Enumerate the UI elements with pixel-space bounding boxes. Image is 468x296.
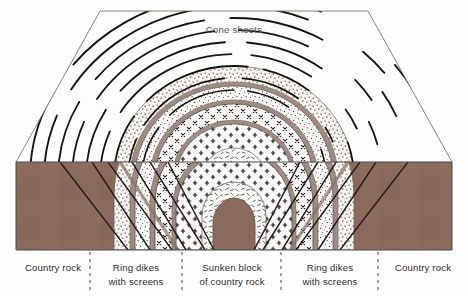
legend-item-4-line1: Country rock: [395, 262, 451, 273]
legend-item-1-line1: Ring dikes: [113, 262, 159, 273]
cone-sheets-label: Cone sheets: [206, 24, 263, 35]
block-diagram-figure: Cone sheets Country rock Ring dikes with…: [0, 0, 468, 296]
legend-item-1-line2: with screens: [107, 276, 163, 287]
legend-item-2-line2: of country rock: [199, 276, 264, 287]
legend-item-2-line1: Sunken block: [202, 262, 261, 273]
legend-item-0-line1: Country rock: [25, 262, 81, 273]
sunken-block-dome: [213, 198, 255, 250]
legend-item-3-line2: with screens: [301, 276, 357, 287]
geological-block-diagram: Cone sheets Country rock Ring dikes with…: [0, 0, 468, 296]
legend-item-3-line1: Ring dikes: [307, 262, 353, 273]
